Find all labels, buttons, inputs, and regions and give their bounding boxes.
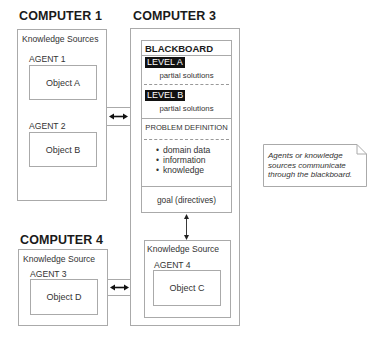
computer-1-section-label: Knowledge Sources	[22, 34, 98, 44]
agent-2-object: Object B	[29, 132, 97, 167]
agent-4-label: AGENT 4	[154, 260, 191, 270]
level-a-text: partial solutions	[142, 71, 231, 80]
blackboard: BLACKBOARD LEVEL A partial solutions LEV…	[141, 40, 232, 213]
agent-1-object: Object A	[29, 65, 97, 100]
level-b-text: partial solutions	[142, 104, 231, 113]
computer-4-box: Knowledge Source AGENT 3 Object D	[18, 249, 108, 326]
blackboard-title: BLACKBOARD	[145, 43, 213, 54]
computer-4-section-label: Knowledge Source	[23, 254, 95, 264]
vertical-double-arrow-icon	[182, 214, 191, 240]
knowledge-source-box: Knowledge Source AGENT 4 Object C	[144, 240, 231, 318]
blackboard-divider	[142, 55, 231, 56]
computer-3-title: COMPUTER 3	[133, 9, 216, 23]
agent-1-label: AGENT 1	[29, 54, 66, 64]
note-text: Agents or knowledge sources communicate …	[268, 151, 360, 180]
agent-3-object: Object D	[30, 279, 98, 315]
agent-3-label: AGENT 3	[30, 269, 67, 279]
bullet-item: information	[156, 155, 210, 165]
note-callout: Agents or knowledge sources communicate …	[263, 144, 367, 187]
blackboard-divider	[142, 118, 231, 119]
level-b-badge: LEVEL B	[145, 90, 185, 101]
level-a-badge: LEVEL A	[145, 57, 185, 68]
agent-3-object-label: Object D	[46, 292, 81, 302]
computer-3-box: BLACKBOARD LEVEL A partial solutions LEV…	[130, 28, 240, 326]
bullet-item: knowledge	[156, 165, 210, 175]
problem-divider	[144, 139, 229, 140]
double-arrow-icon	[110, 283, 129, 292]
knowledge-source-label: Knowledge Source	[147, 244, 219, 254]
problem-definition-label: PROBLEM DEFINITION	[142, 123, 231, 132]
agent-4-object-label: Object C	[169, 283, 204, 293]
agent-2-object-label: Object B	[46, 145, 81, 155]
agent-2-label: AGENT 2	[29, 121, 66, 131]
computer-1-title: COMPUTER 1	[19, 9, 102, 23]
problem-bullets: domain data information knowledge	[156, 145, 210, 175]
connector-c1-c3	[106, 107, 131, 126]
bullet-item: domain data	[156, 145, 210, 155]
computer-4-title: COMPUTER 4	[20, 233, 103, 247]
agent-4-object: Object C	[153, 270, 221, 306]
level-divider	[144, 84, 229, 85]
blackboard-divider	[142, 186, 231, 187]
goal-label: goal (directives)	[142, 195, 231, 205]
computer-1-box: Knowledge Sources AGENT 1 Object A AGENT…	[17, 29, 107, 201]
agent-1-object-label: Object A	[46, 78, 80, 88]
connector-c4-c3	[107, 279, 131, 296]
double-arrow-icon	[109, 112, 128, 121]
